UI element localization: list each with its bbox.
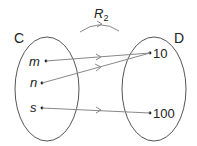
set-c-label: C (14, 30, 24, 46)
set-d-label: D (174, 30, 184, 46)
relation-arc-arrowhead-icon (97, 21, 102, 27)
mapping-s-to-100 (42, 108, 150, 113)
set-c-ellipse (15, 37, 79, 141)
mapping-s-arrowhead-icon (96, 107, 101, 113)
element-m: m (29, 54, 40, 69)
relation-label: R2 (94, 6, 108, 23)
element-10: 10 (153, 46, 167, 61)
element-100: 100 (153, 106, 175, 121)
relation-diagram: R2 C D m n s 10 100 (0, 0, 197, 146)
element-s: s (30, 100, 37, 115)
element-n: n (30, 75, 37, 90)
